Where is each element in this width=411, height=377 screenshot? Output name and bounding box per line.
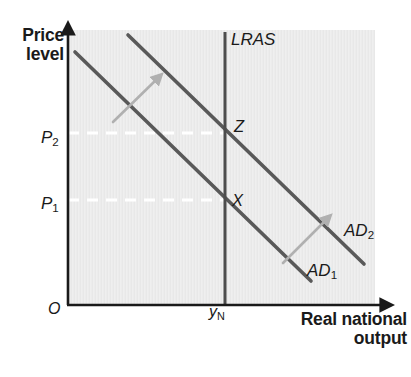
y-axis-title-line2: level [26, 44, 64, 64]
x-axis-title: Real nationaloutput [255, 310, 407, 348]
curve-label-ad1-subscript: 1 [331, 269, 337, 281]
point-label-z: Z [234, 118, 244, 136]
x-axis-title-line1: Real national [301, 309, 407, 329]
x-tick-label-yn-base: y [209, 303, 217, 320]
y-axis-title-line1: Price [22, 25, 64, 45]
point-label-x: X [232, 192, 243, 210]
x-tick-label-yn: yN [209, 303, 225, 323]
curve-label-ad2-base: AD [344, 221, 368, 240]
curve-label-lras: LRAS [231, 31, 275, 49]
y-tick-label-p1-base: P [41, 194, 52, 213]
y-tick-label-p2-base: P [41, 128, 52, 147]
y-tick-label-p1: P1 [41, 195, 59, 215]
y-tick-label-p2: P2 [41, 129, 59, 149]
curve-label-ad2: AD2 [344, 222, 374, 242]
curve-label-ad1: AD1 [307, 262, 337, 282]
y-tick-label-p2-subscript: 2 [52, 136, 58, 148]
x-axis-title-line2: output [354, 328, 407, 348]
y-axis-title: Pricelevel [6, 26, 64, 64]
x-tick-label-yn-subscript: N [217, 310, 225, 322]
curve-label-ad2-subscript: 2 [368, 229, 374, 241]
ad-as-diagram: Pricelevel Real nationaloutput LRAS P2 P… [0, 0, 411, 377]
origin-label: O [48, 300, 60, 317]
curve-label-ad1-base: AD [307, 261, 331, 280]
y-tick-label-p1-subscript: 1 [52, 202, 58, 214]
